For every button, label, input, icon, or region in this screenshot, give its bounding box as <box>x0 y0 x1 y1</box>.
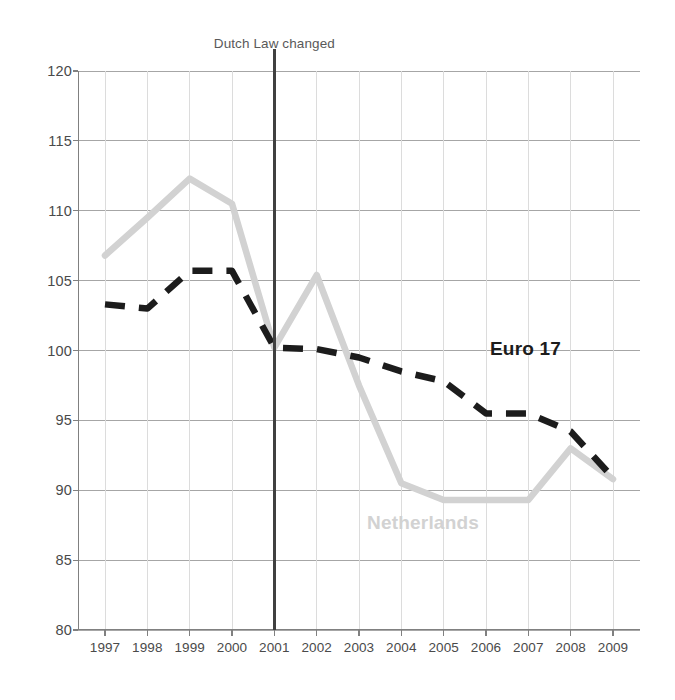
y-tick-90: 90 <box>30 482 72 498</box>
y-tick-100: 100 <box>30 343 72 359</box>
x-tick-2008: 2008 <box>555 640 585 655</box>
y-tick-120: 120 <box>30 63 72 79</box>
x-tick-2009: 2009 <box>598 640 628 655</box>
x-tick-2000: 2000 <box>217 640 247 655</box>
x-tick-2005: 2005 <box>428 640 458 655</box>
series-label-euro17: Euro 17 <box>490 338 561 360</box>
y-tick-85: 85 <box>30 552 72 568</box>
y-tick-80: 80 <box>30 622 72 638</box>
x-tick-2001: 2001 <box>259 640 289 655</box>
y-tick-110: 110 <box>30 203 72 219</box>
x-tick-2002: 2002 <box>301 640 331 655</box>
x-tick-2007: 2007 <box>513 640 543 655</box>
y-axis-tick-labels: 12011511010510095908580 <box>20 71 72 630</box>
x-tick-1997: 1997 <box>90 640 120 655</box>
chart-container: Dutch Law changed 1201151101051009590858… <box>0 0 675 700</box>
y-tick-115: 115 <box>30 133 72 149</box>
series-label-netherlands: Netherlands <box>367 512 479 534</box>
x-axis-tick-labels: 1997199819992000200120022003200420052006… <box>78 640 640 668</box>
x-tick-2006: 2006 <box>471 640 501 655</box>
y-tick-95: 95 <box>30 412 72 428</box>
x-tick-1998: 1998 <box>132 640 162 655</box>
x-tick-2004: 2004 <box>386 640 416 655</box>
y-tick-105: 105 <box>30 273 72 289</box>
annotation-dutch-law-changed: Dutch Law changed <box>214 36 335 51</box>
x-tick-1999: 1999 <box>174 640 204 655</box>
x-tick-2003: 2003 <box>344 640 374 655</box>
